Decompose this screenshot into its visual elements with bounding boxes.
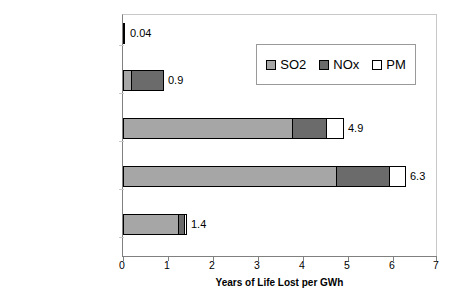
legend: SO2 NOx PM <box>256 44 416 85</box>
bar-total-label: 0.04 <box>126 23 151 44</box>
x-tick-label: 6 <box>380 259 404 271</box>
chart-row: Weihai Coal Ref. 1.4 <box>123 213 436 261</box>
x-tick-label: 2 <box>200 259 224 271</box>
legend-item-pm[interactable]: PM <box>372 57 406 72</box>
x-tick-label: 4 <box>290 259 314 271</box>
chart-row: Heze Coal Ref. 6.3 <box>123 165 436 213</box>
bar-segment-so2[interactable] <box>123 118 292 139</box>
x-tick-label: 0 <box>110 259 134 271</box>
legend-label: NOx <box>333 57 359 72</box>
stacked-bar <box>123 166 406 187</box>
bar-segment-so2[interactable] <box>123 166 336 187</box>
chart-row: Jinan Coal Ref. 4.9 <box>123 117 436 165</box>
bar-segment-nox[interactable] <box>336 166 389 187</box>
legend-swatch-pm-icon <box>372 60 382 70</box>
category-tick <box>119 93 124 94</box>
stacked-bar <box>123 23 125 44</box>
bar-total-label: 0.9 <box>164 70 183 91</box>
bar-segment-so2[interactable] <box>123 70 131 91</box>
bar-segment-nox[interactable] <box>123 23 125 44</box>
x-tick-label: 5 <box>335 259 359 271</box>
stacked-bar <box>123 214 187 235</box>
plot-area: Jinan Future Gas CC 0.04 Jinan Coal FGD … <box>122 14 437 257</box>
category-tick <box>119 45 124 46</box>
legend-swatch-nox-icon <box>319 60 329 70</box>
bar-segment-nox[interactable] <box>131 70 164 91</box>
x-axis-title: Years of Life Lost per GWh <box>122 277 437 288</box>
category-tick <box>119 189 124 190</box>
stacked-bar-chart: Jinan Future Gas CC 0.04 Jinan Coal FGD … <box>0 0 460 303</box>
bar-segment-pm[interactable] <box>389 166 406 187</box>
category-tick <box>119 141 124 142</box>
legend-label: SO2 <box>280 57 306 72</box>
legend-swatch-so2-icon <box>266 60 276 70</box>
legend-label: PM <box>386 57 406 72</box>
x-tick-label: 1 <box>155 259 179 271</box>
bar-segment-nox[interactable] <box>292 118 326 139</box>
legend-item-nox[interactable]: NOx <box>319 57 359 72</box>
x-tick-label: 3 <box>245 259 269 271</box>
bar-total-label: 6.3 <box>406 166 425 187</box>
bar-total-label: 4.9 <box>344 118 363 139</box>
bar-total-label: 1.4 <box>187 214 206 235</box>
category-tick <box>119 237 124 238</box>
x-tick-label: 7 <box>424 259 448 271</box>
legend-item-so2[interactable]: SO2 <box>266 57 306 72</box>
stacked-bar <box>123 118 344 139</box>
bar-segment-pm[interactable] <box>326 118 344 139</box>
stacked-bar <box>123 70 164 91</box>
bar-segment-so2[interactable] <box>123 214 178 235</box>
